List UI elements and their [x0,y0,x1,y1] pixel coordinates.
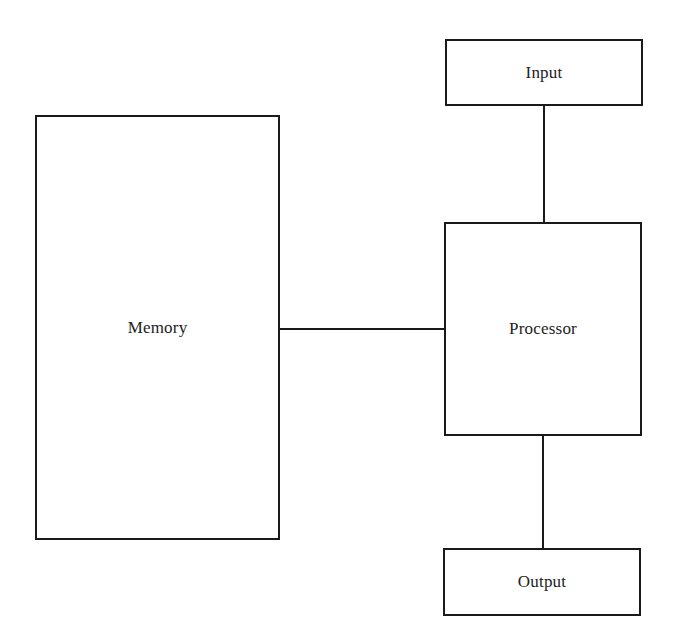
processor-label: Processor [509,319,577,339]
memory-label: Memory [128,318,188,338]
input-block: Input [445,39,643,106]
processor-output-connector [542,436,544,548]
memory-processor-connector [280,328,444,330]
output-block: Output [443,548,641,616]
output-label: Output [518,572,566,592]
diagram-canvas: Memory Processor Input Output [0,0,674,637]
processor-block: Processor [444,222,642,436]
memory-block: Memory [35,115,280,540]
input-label: Input [526,63,563,83]
input-processor-connector [543,106,545,222]
